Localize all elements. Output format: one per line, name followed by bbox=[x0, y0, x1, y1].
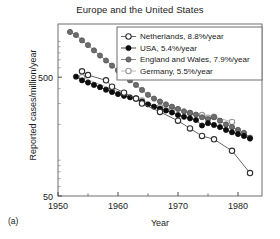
data-point bbox=[181, 114, 186, 119]
data-point bbox=[157, 109, 162, 114]
data-point bbox=[133, 96, 138, 101]
chart-figure: Europe and the United States Reported ca… bbox=[0, 0, 280, 239]
data-point bbox=[193, 117, 198, 122]
legend-marker bbox=[126, 57, 131, 62]
data-point bbox=[79, 78, 84, 83]
data-point bbox=[115, 92, 120, 97]
x-tick-label: 1980 bbox=[228, 201, 248, 211]
data-point bbox=[157, 99, 162, 104]
data-point bbox=[91, 48, 96, 53]
data-point bbox=[85, 43, 90, 48]
data-point bbox=[193, 112, 198, 117]
data-point bbox=[229, 148, 234, 153]
data-point bbox=[103, 78, 108, 83]
data-point bbox=[145, 92, 150, 97]
data-point bbox=[199, 123, 204, 128]
data-point bbox=[97, 85, 102, 90]
legend-item-england-and-wales[interactable]: England and Wales, 7.9%/year bbox=[121, 55, 250, 64]
data-point bbox=[175, 118, 180, 123]
data-point bbox=[223, 127, 228, 132]
legend-marker bbox=[126, 45, 131, 50]
data-point bbox=[103, 58, 108, 63]
legend-marker bbox=[126, 34, 131, 39]
data-point bbox=[241, 133, 246, 138]
legend-label: Germany, 5.5%/year bbox=[140, 67, 213, 76]
data-point bbox=[169, 104, 174, 109]
data-point bbox=[211, 137, 216, 142]
legend-label: USA, 5.4%/year bbox=[140, 44, 197, 53]
x-tick-label: 1970 bbox=[168, 201, 188, 211]
data-point bbox=[73, 74, 78, 79]
data-point bbox=[205, 121, 210, 126]
legend-label: England and Wales, 7.9%/year bbox=[140, 55, 250, 64]
data-point bbox=[187, 110, 192, 115]
data-point bbox=[217, 118, 222, 123]
data-point bbox=[229, 130, 234, 135]
data-point bbox=[73, 32, 78, 37]
data-point bbox=[223, 122, 228, 127]
plot-canvas: 195019601970198050500 Netherlands, 8.8%/… bbox=[0, 0, 280, 239]
data-point bbox=[91, 82, 96, 87]
data-point bbox=[85, 80, 90, 85]
data-point bbox=[109, 89, 114, 94]
x-tick-label: 1950 bbox=[48, 201, 68, 211]
data-point bbox=[133, 82, 138, 87]
data-point bbox=[175, 112, 180, 117]
data-point bbox=[169, 110, 174, 115]
legend-marker bbox=[126, 68, 131, 73]
x-tick-label: 1960 bbox=[108, 201, 128, 211]
data-point bbox=[217, 124, 222, 129]
data-point bbox=[211, 122, 216, 127]
data-point bbox=[139, 101, 144, 106]
data-point bbox=[85, 72, 90, 77]
data-point bbox=[79, 69, 84, 74]
data-point bbox=[109, 63, 114, 68]
data-point bbox=[97, 53, 102, 58]
y-tick-label: 50 bbox=[43, 192, 53, 202]
y-tick-label: 500 bbox=[38, 73, 53, 83]
data-point bbox=[229, 119, 234, 124]
data-point bbox=[187, 126, 192, 131]
data-point bbox=[109, 84, 114, 89]
data-point bbox=[181, 109, 186, 114]
data-point bbox=[163, 108, 168, 113]
data-point bbox=[187, 116, 192, 121]
data-point bbox=[79, 38, 84, 43]
data-point bbox=[103, 87, 108, 92]
data-point bbox=[247, 136, 252, 141]
data-point bbox=[235, 131, 240, 136]
data-point bbox=[121, 90, 126, 95]
data-point bbox=[139, 87, 144, 92]
data-point bbox=[199, 133, 204, 138]
data-point bbox=[199, 115, 204, 120]
data-point bbox=[247, 170, 252, 175]
data-point bbox=[151, 96, 156, 101]
data-point bbox=[229, 124, 234, 129]
legend-layer[interactable]: Netherlands, 8.8%/yearUSA, 5.4%/yearEngl… bbox=[117, 27, 262, 80]
legend-label: Netherlands, 8.8%/year bbox=[140, 32, 224, 41]
data-point bbox=[67, 29, 72, 34]
data-point bbox=[175, 106, 180, 111]
data-point bbox=[163, 102, 168, 107]
data-point bbox=[211, 115, 216, 120]
